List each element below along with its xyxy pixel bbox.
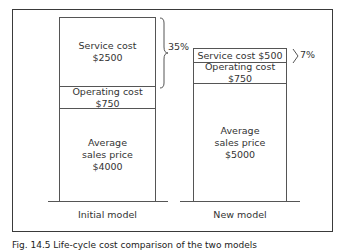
initial-service-percent: 35% bbox=[168, 41, 189, 52]
new-sales-price-label-2: sales price bbox=[215, 137, 266, 149]
new-operating-cost-label: Operating cost bbox=[205, 61, 275, 73]
initial-sales-price-block: Average sales price $4000 bbox=[59, 108, 156, 201]
initial-service-cost-label: Service cost bbox=[79, 40, 137, 52]
initial-operating-cost-block: Operating cost $750 bbox=[59, 86, 156, 109]
initial-operating-cost-label: Operating cost bbox=[72, 86, 142, 98]
initial-model-label: Initial model bbox=[59, 209, 156, 220]
new-service-brace-icon bbox=[292, 48, 300, 64]
new-baseline bbox=[180, 201, 300, 202]
figure-caption: Fig. 14.5 Life-cycle cost comparison of … bbox=[12, 240, 257, 250]
initial-baseline bbox=[48, 201, 168, 202]
initial-service-cost-value: $2500 bbox=[92, 52, 122, 64]
new-model-label: New model bbox=[193, 209, 287, 220]
initial-service-cost-block: Service cost $2500 bbox=[59, 17, 156, 87]
new-sales-price-block: Average sales price $5000 bbox=[193, 83, 287, 201]
initial-sales-price-label-1: Average bbox=[88, 137, 127, 149]
initial-sales-price-value: $4000 bbox=[92, 161, 122, 173]
new-sales-price-label-1: Average bbox=[220, 125, 259, 137]
new-sales-price-value: $5000 bbox=[225, 149, 255, 161]
new-service-percent: 7% bbox=[300, 49, 315, 60]
new-service-cost-label: Service cost $500 bbox=[197, 50, 282, 62]
new-operating-cost-block: Operating cost $750 bbox=[193, 62, 287, 84]
initial-service-brace-icon bbox=[159, 17, 169, 89]
initial-sales-price-label-2: sales price bbox=[82, 149, 133, 161]
